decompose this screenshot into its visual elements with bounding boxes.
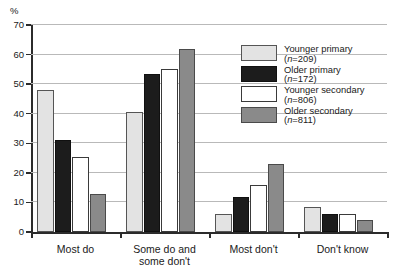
y-tick-label-0: 0 [0,227,24,237]
x-tick-label-1: Some do andsome don't [120,243,209,267]
legend-label-younger-primary: Younger primary(n=209) [277,44,352,64]
x-tick-label-0: Most do [31,243,120,255]
bar-group-0 [31,25,120,232]
bar-younger-primary-3 [304,207,321,232]
bar-group-1 [120,25,209,232]
y-tick-label-30: 30 [0,138,24,148]
bar-younger-secondary-3 [339,214,356,232]
legend-label-older-primary: Older primary(n=172) [277,65,341,85]
y-tick-label-50: 50 [0,79,24,89]
y-tick-label-60: 60 [0,50,24,60]
legend-item-older-secondary[interactable]: Older secondary(n=811) [241,106,391,127]
bar-younger-primary-0 [37,90,54,232]
x-tick-label-2: Most don't [209,243,298,255]
bar-older-primary-3 [322,214,339,232]
bar-older-primary-2 [233,197,250,232]
legend-swatch-older-primary [241,66,277,82]
legend-series-count: (n=806) [284,95,364,105]
x-tick-mark-2 [209,232,211,238]
y-tick-label-70: 70 [0,20,24,30]
x-tick-label-3: Don't know [298,243,387,255]
legend: Younger primary(n=209)Older primary(n=17… [241,44,391,126]
bar-older-secondary-3 [357,220,374,232]
bar-older-secondary-0 [90,194,107,232]
x-tick-mark-4 [387,232,389,238]
y-tick-label-40: 40 [0,109,24,119]
legend-swatch-older-secondary [241,107,277,123]
bar-younger-secondary-2 [250,185,267,232]
legend-item-younger-secondary[interactable]: Younger secondary(n=806) [241,85,391,106]
legend-label-younger-secondary: Younger secondary(n=806) [277,85,364,105]
y-tick-label-20: 20 [0,168,24,178]
legend-series-count: (n=172) [284,74,341,84]
bar-younger-secondary-0 [72,157,89,232]
bar-older-secondary-1 [179,49,196,232]
x-tick-mark-3 [298,232,300,238]
bar-younger-primary-1 [126,112,143,232]
y-axis-title: % [10,6,18,16]
legend-item-older-primary[interactable]: Older primary(n=172) [241,65,391,86]
bar-older-primary-1 [144,74,161,232]
legend-item-younger-primary[interactable]: Younger primary(n=209) [241,44,391,65]
y-tick-label-10: 10 [0,197,24,207]
legend-label-older-secondary: Older secondary(n=811) [277,106,353,126]
legend-swatch-younger-primary [241,45,277,61]
bar-older-secondary-2 [268,164,285,232]
bar-younger-primary-2 [215,214,232,232]
bar-older-primary-0 [55,140,72,232]
legend-series-count: (n=811) [284,115,353,125]
legend-series-count: (n=209) [284,54,352,64]
x-tick-mark-1 [120,232,122,238]
legend-swatch-younger-secondary [241,86,277,102]
bar-chart: % 010203040506070 Most doSome do andsome… [0,0,396,270]
x-tick-mark-0 [31,232,33,238]
bar-younger-secondary-1 [161,69,178,232]
